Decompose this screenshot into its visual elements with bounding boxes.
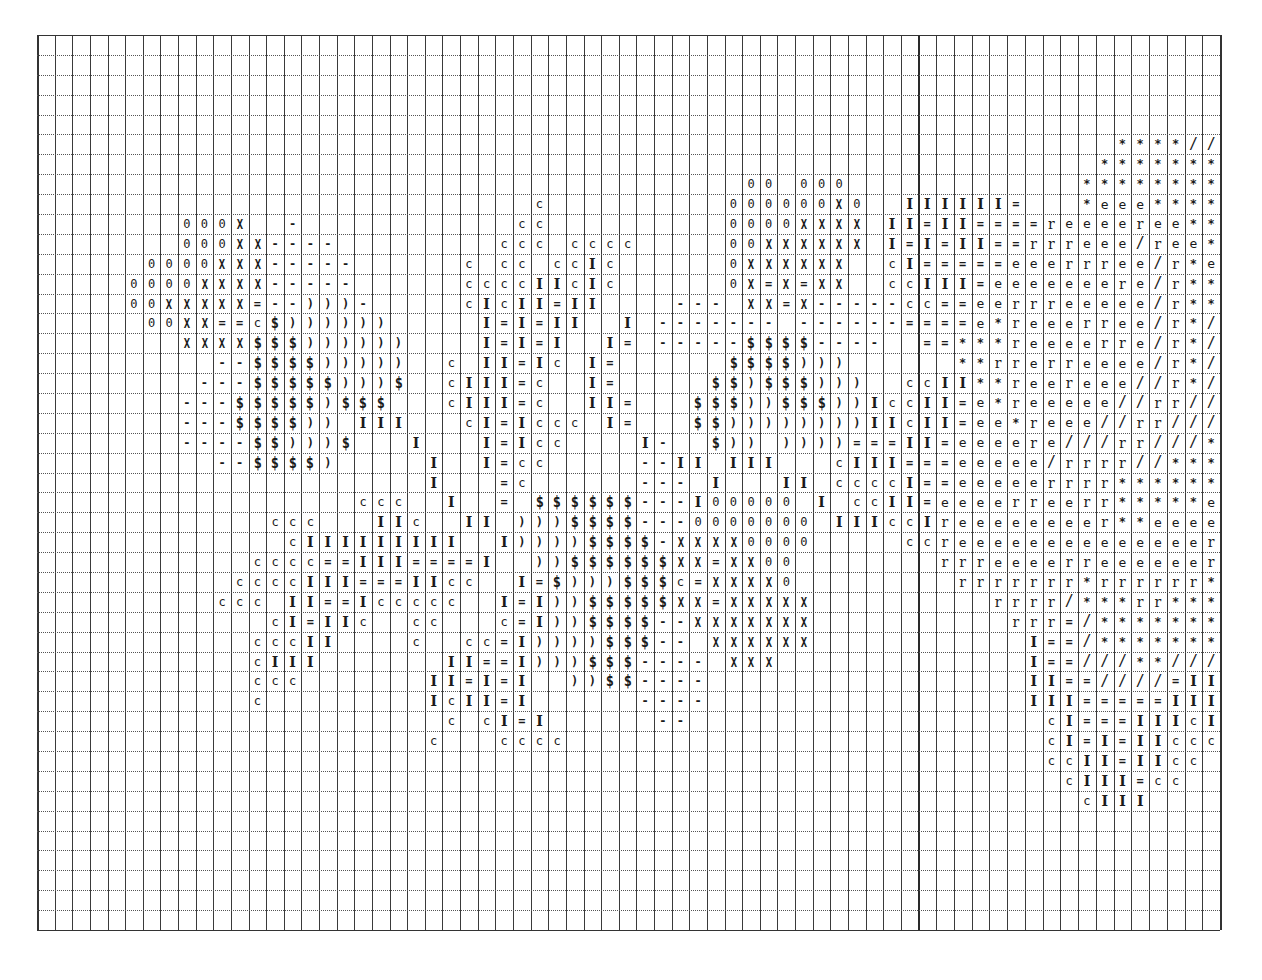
chart-cell: e <box>1061 295 1077 313</box>
chart-cell: = <box>1115 752 1131 770</box>
chart-cell: I <box>426 692 442 710</box>
chart-cell: ) <box>532 653 548 671</box>
chart-cell: ) <box>743 434 759 452</box>
chart-cell: * <box>1150 155 1166 173</box>
chart-cell: X <box>692 533 704 551</box>
grid-vline <box>760 35 761 930</box>
chart-cell: c <box>250 573 266 591</box>
chart-cell: - <box>637 493 653 511</box>
chart-cell: r <box>937 513 953 531</box>
chart-cell: r <box>1061 354 1077 372</box>
chart-cell: ) <box>302 295 318 313</box>
chart-cell: e <box>1097 275 1113 293</box>
chart-cell: c <box>919 374 935 392</box>
chart-cell: r <box>1132 215 1148 233</box>
chart-cell: r <box>1150 573 1166 591</box>
chart-cell: - <box>708 295 724 313</box>
chart-cell: - <box>673 672 689 690</box>
chart-cell: ) <box>302 334 318 352</box>
chart-cell: r <box>1115 573 1131 591</box>
grid-vline <box>478 35 479 930</box>
chart-cell: e <box>1132 275 1148 293</box>
chart-cell: - <box>673 633 689 651</box>
chart-cell: c <box>1150 772 1166 790</box>
chart-cell: I <box>602 334 618 352</box>
chart-cell: I <box>1132 792 1148 810</box>
chart-cell: = <box>955 255 971 273</box>
chart-cell: 0 <box>743 215 759 233</box>
chart-cell: 0 <box>126 295 142 313</box>
chart-cell: ) <box>320 434 336 452</box>
chart-cell: ) <box>320 314 336 332</box>
chart-cell: e <box>1044 493 1060 511</box>
chart-cell: * <box>1186 275 1202 293</box>
chart-cell: 0 <box>778 195 794 213</box>
chart-cell: 0 <box>796 175 812 193</box>
chart-cell: c <box>443 692 459 710</box>
chart-cell: / <box>1203 334 1219 352</box>
chart-cell: ) <box>814 434 830 452</box>
chart-cell: e <box>955 434 971 452</box>
chart-cell: I <box>479 672 495 690</box>
chart-cell: * <box>1150 474 1166 492</box>
chart-cell: / <box>1044 454 1060 472</box>
chart-cell: 0 <box>743 493 759 511</box>
chart-cell: / <box>1203 135 1219 153</box>
chart-cell: - <box>338 255 354 273</box>
chart-cell: * <box>1150 175 1166 193</box>
chart-cell: I <box>285 653 301 671</box>
chart-cell: X <box>833 275 845 293</box>
chart-cell: * <box>955 334 971 352</box>
chart-cell: I <box>1150 732 1166 750</box>
chart-cell: X <box>216 275 228 293</box>
chart-cell: $ <box>603 493 616 511</box>
chart-cell: $ <box>586 593 599 611</box>
chart-cell: c <box>461 295 477 313</box>
chart-cell: X <box>692 613 704 631</box>
chart-cell: c <box>1203 732 1219 750</box>
chart-cell: e <box>1044 334 1060 352</box>
chart-cell: ) <box>778 414 794 432</box>
chart-cell: / <box>1150 672 1166 690</box>
chart-cell: ) <box>355 334 371 352</box>
chart-cell: $ <box>727 394 740 412</box>
chart-cell: X <box>675 533 687 551</box>
chart-cell: X <box>745 573 757 591</box>
chart-cell: e <box>1203 513 1219 531</box>
chart-cell: I <box>1203 692 1219 710</box>
chart-cell: I <box>338 573 354 591</box>
chart-cell: X <box>798 593 810 611</box>
chart-cell: r <box>1026 613 1042 631</box>
chart-cell: c <box>532 215 548 233</box>
chart-cell: c <box>461 275 477 293</box>
chart-cell: 0 <box>796 195 812 213</box>
chart-cell: X <box>199 295 211 313</box>
chart-cell: r <box>1132 414 1148 432</box>
chart-cell: X <box>216 295 228 313</box>
chart-cell: * <box>1186 354 1202 372</box>
chart-cell: X <box>763 613 775 631</box>
chart-cell: * <box>1203 215 1219 233</box>
chart-cell: I <box>285 613 301 631</box>
chart-cell: * <box>1186 613 1202 631</box>
chart-cell: $ <box>251 414 264 432</box>
chart-cell: $ <box>780 334 793 352</box>
chart-cell: * <box>1186 155 1202 173</box>
chart-cell: r <box>1061 255 1077 273</box>
chart-cell: I <box>973 235 989 253</box>
chart-cell: $ <box>268 434 281 452</box>
chart-cell: / <box>1203 314 1219 332</box>
chart-cell: * <box>990 394 1006 412</box>
chart-cell: e <box>973 414 989 432</box>
chart-cell: I <box>338 613 354 631</box>
grid-vline <box>725 35 726 930</box>
chart-cell: e <box>1044 394 1060 412</box>
chart-cell: ) <box>514 533 530 551</box>
chart-cell: X <box>745 593 757 611</box>
chart-cell: = <box>1008 215 1024 233</box>
chart-cell: $ <box>656 593 669 611</box>
chart-cell: - <box>655 653 671 671</box>
chart-cell: 0 <box>761 215 777 233</box>
chart-cell: c <box>443 374 459 392</box>
chart-cell: = <box>496 314 512 332</box>
